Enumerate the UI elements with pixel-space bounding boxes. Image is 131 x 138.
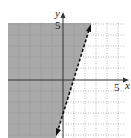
x-tick-5-label: 5 [114, 82, 120, 93]
y-axis-arrow-icon [61, 12, 66, 18]
inequality-plot [0, 0, 131, 138]
x-axis-label: x [125, 80, 130, 91]
y-tick-5-label: 5 [55, 20, 61, 31]
y-axis-label: y [55, 8, 60, 19]
